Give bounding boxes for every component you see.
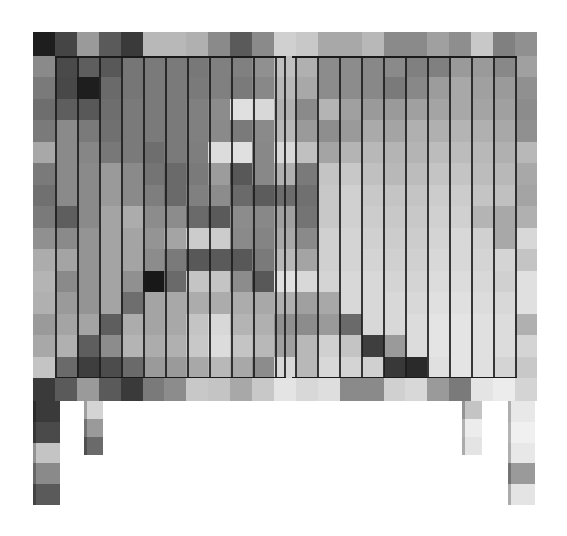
top-band-cell <box>362 32 384 56</box>
pixel-cell <box>143 314 165 335</box>
pixel-cell <box>77 142 99 163</box>
pixel-cell <box>143 120 165 141</box>
pixel-cell <box>515 185 537 206</box>
pixel-cell <box>33 56 55 77</box>
top-band-cell <box>340 32 362 56</box>
leg-cell <box>84 419 103 437</box>
pixel-cell <box>274 228 296 249</box>
pixel-cell <box>208 292 230 313</box>
pixel-cell <box>449 335 471 356</box>
pixel-cell <box>515 142 537 163</box>
pixel-cell <box>230 206 252 227</box>
pixel-cell <box>99 271 121 292</box>
pixel-cell <box>208 56 230 77</box>
pixel-cell <box>449 228 471 249</box>
pixel-cell <box>318 77 340 98</box>
pixel-cell <box>33 185 55 206</box>
pixel-cell <box>33 335 55 356</box>
pixel-cell <box>318 314 340 335</box>
pixel-cell <box>340 335 362 356</box>
pixel-cell <box>296 292 318 313</box>
leg-cell <box>508 401 535 422</box>
pixel-cell <box>515 249 537 270</box>
pixel-cell <box>427 77 449 98</box>
pixel-cell <box>449 314 471 335</box>
pixel-cell <box>121 185 143 206</box>
leg-cell <box>33 422 60 443</box>
pixel-cell <box>33 271 55 292</box>
pixel-cell <box>274 77 296 98</box>
pixel-cell <box>208 185 230 206</box>
bottom-band-cell <box>55 378 77 401</box>
pixel-cell <box>252 77 274 98</box>
leg-front-right <box>508 401 535 505</box>
pixel-cell <box>252 185 274 206</box>
pixel-cell <box>384 120 406 141</box>
pixel-cell <box>362 206 384 227</box>
top-band-cell <box>274 32 296 56</box>
pixel-cell <box>427 99 449 120</box>
bottom-band-cell <box>164 378 186 401</box>
pixel-cell <box>384 99 406 120</box>
pixel-cell <box>296 99 318 120</box>
pixel-cell <box>471 120 493 141</box>
pixel-cell <box>515 163 537 184</box>
pixel-cell <box>121 335 143 356</box>
pixel-cell <box>340 228 362 249</box>
pixel-cell <box>186 357 208 378</box>
pixel-cell <box>208 163 230 184</box>
top-band-cell <box>405 32 427 56</box>
pixel-cell <box>449 271 471 292</box>
pixel-cell <box>471 228 493 249</box>
pixel-cell <box>230 77 252 98</box>
pixel-cell <box>230 56 252 77</box>
pixel-cell <box>121 271 143 292</box>
pixel-cell <box>318 142 340 163</box>
pixel-cell <box>318 120 340 141</box>
pixel-cell <box>252 120 274 141</box>
pixel-cell <box>427 292 449 313</box>
bottom-band-cell <box>471 378 493 401</box>
pixel-cell <box>493 271 515 292</box>
pixel-cell <box>186 335 208 356</box>
pixel-cell <box>406 120 428 141</box>
bottom-band-cell <box>274 378 296 401</box>
bottom-band-cell <box>99 378 121 401</box>
pixel-cell <box>99 163 121 184</box>
pixel-cell <box>55 271 77 292</box>
pixel-cell <box>33 120 55 141</box>
pixel-cell <box>274 185 296 206</box>
pixel-cell <box>362 335 384 356</box>
pixel-cell <box>406 77 428 98</box>
leg-cell <box>508 463 535 484</box>
pixel-cell <box>406 249 428 270</box>
pixel-cell <box>515 120 537 141</box>
pixel-cell <box>449 120 471 141</box>
pixel-cell <box>164 77 186 98</box>
leg-cell <box>84 401 103 419</box>
pixel-cell <box>340 77 362 98</box>
pixel-cell <box>274 56 296 77</box>
bottom-band-cell <box>384 378 406 401</box>
pixel-cell <box>186 77 208 98</box>
pixel-cell <box>252 271 274 292</box>
pixel-cell <box>164 99 186 120</box>
pixel-cell <box>164 56 186 77</box>
pixel-cell <box>186 228 208 249</box>
pixel-cell <box>99 335 121 356</box>
pixel-cell <box>427 206 449 227</box>
pixel-cell <box>449 142 471 163</box>
pixel-cell <box>362 56 384 77</box>
pixel-cell <box>274 292 296 313</box>
pixel-cell <box>252 314 274 335</box>
top-band-cell <box>318 32 340 56</box>
pixel-cell <box>186 292 208 313</box>
bottom-band-cell <box>143 378 165 401</box>
pixel-cell <box>340 249 362 270</box>
pixel-cell <box>449 99 471 120</box>
pixel-cell <box>121 77 143 98</box>
pixel-cell <box>296 77 318 98</box>
top-band-cell <box>55 32 77 56</box>
pixel-cell <box>515 314 537 335</box>
pixel-cell <box>143 163 165 184</box>
